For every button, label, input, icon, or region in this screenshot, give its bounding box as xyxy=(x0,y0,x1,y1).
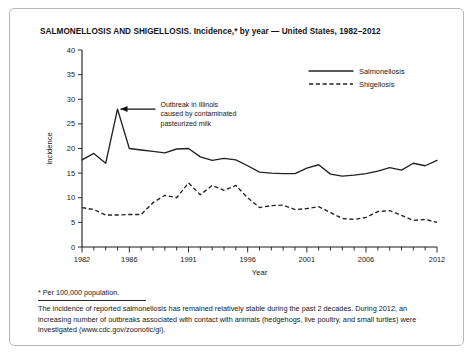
y-axis-tick-label: 15 xyxy=(67,169,75,178)
y-axis-tick-label: 40 xyxy=(67,46,75,55)
y-axis-tick-label: 10 xyxy=(67,193,75,202)
y-axis-tick-label: 20 xyxy=(67,144,75,153)
footnote-area: * Per 100,000 population. The incidence … xyxy=(38,288,438,336)
x-axis-tick-label: 2001 xyxy=(299,255,315,264)
x-axis-tick-label: 2006 xyxy=(358,255,374,264)
annotation-text-line: Outbreak in Illinois xyxy=(161,101,219,108)
x-axis-tick-label: 1982 xyxy=(74,255,90,264)
y-axis-tick-label: 35 xyxy=(67,70,75,79)
figure-page: SALMONELLOSIS AND SHIGELLOSIS. Incidence… xyxy=(0,0,473,354)
y-axis-tick-label: 0 xyxy=(71,243,75,252)
series-line-salmonellosis xyxy=(82,109,437,176)
x-axis-tick-label: 1986 xyxy=(121,255,137,264)
y-axis-tick-label: 25 xyxy=(67,119,75,128)
x-axis-title: Year xyxy=(252,268,268,277)
annotation-arrowhead xyxy=(121,106,128,112)
footnote-asterisk: * Per 100,000 population. xyxy=(38,288,438,298)
annotation-text-line: caused by contaminated xyxy=(161,110,237,118)
footnote-body: The incidence of reported salmonellosis … xyxy=(38,304,438,336)
series-line-shigellosis xyxy=(82,183,437,222)
annotation-text-line: pasteurized milk xyxy=(161,120,212,128)
y-axis-title: Incidence xyxy=(45,132,54,165)
y-axis-tick-label: 5 xyxy=(71,218,75,227)
x-axis-tick-label: 1991 xyxy=(180,255,196,264)
x-axis-tick-label: 2012 xyxy=(429,255,445,264)
y-axis-tick-label: 30 xyxy=(67,95,75,104)
legend-label: Salmonellosis xyxy=(359,67,405,76)
footnote-divider xyxy=(38,300,146,301)
x-axis-tick-label: 1996 xyxy=(239,255,255,264)
legend-label: Shigellosis xyxy=(359,80,395,89)
